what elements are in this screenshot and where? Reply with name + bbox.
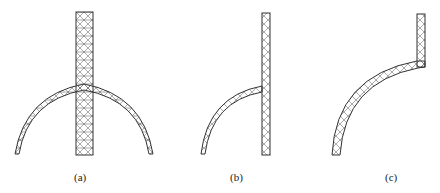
caption-a: (a)	[74, 171, 86, 183]
panel-b	[201, 13, 270, 155]
caption-b: (b)	[230, 171, 243, 183]
column-b	[262, 13, 270, 155]
arch-c	[332, 61, 425, 155]
arch-b	[201, 86, 262, 154]
mesh-diagram	[0, 0, 440, 193]
column-a	[76, 12, 93, 155]
panel-a	[15, 12, 153, 155]
caption-c: (c)	[385, 171, 397, 183]
column-c	[417, 14, 425, 67]
panel-c	[332, 14, 425, 155]
